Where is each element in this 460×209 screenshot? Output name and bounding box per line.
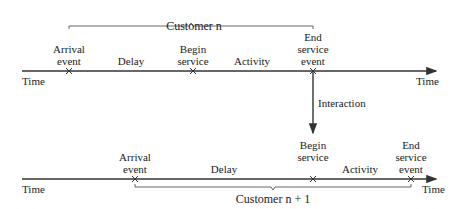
bottom-activity-label: Activity — [342, 163, 378, 175]
top-time-axis-end-label: Time — [416, 75, 439, 87]
bottom-arrival-event-label: Arrival event — [119, 151, 151, 175]
top-brace-label: Customer n — [160, 8, 222, 32]
interaction-label: Interaction — [318, 97, 366, 109]
top-end-service-event-label: End service event — [297, 31, 328, 67]
top-activity-label: Activity — [234, 55, 270, 67]
bottom-begin-service-label: Begin service — [297, 139, 328, 163]
bottom-brace-label: Customer n + 1 — [236, 193, 310, 205]
bottom-customer-brace — [135, 184, 411, 190]
bottom-time-axis-end-label: Time — [422, 183, 445, 195]
bottom-time-axis-label: Time — [22, 183, 45, 195]
bottom-delay-label: Delay — [211, 163, 237, 175]
bottom-end-service-event-label: End service event — [395, 139, 426, 175]
top-arrival-event-label: Arrival event — [53, 43, 85, 67]
timeline-diagram-graphics — [0, 0, 460, 209]
top-begin-service-label: Begin service — [177, 43, 208, 67]
top-time-axis-label: Time — [22, 75, 45, 87]
top-delay-label: Delay — [118, 55, 144, 67]
